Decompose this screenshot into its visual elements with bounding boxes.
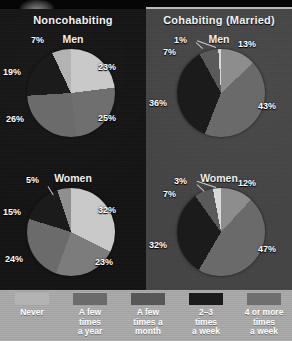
- pie-slice-label: 23%: [95, 257, 113, 267]
- pie-slice-label: 19%: [3, 67, 21, 77]
- panel-title-cohabiting: Cohabiting (Married): [146, 14, 292, 26]
- legend-label: A fewtimes amonth: [119, 308, 177, 337]
- panel-noncohabiting: Noncohabiting Men 7%23%25%26%19% Women 5…: [0, 9, 146, 290]
- pie-slice-label: 23%: [98, 62, 116, 72]
- legend-swatch: [15, 293, 49, 305]
- pie-slice-label: 25%: [98, 113, 116, 123]
- pie-slice-label: 36%: [149, 98, 167, 108]
- panels-container: Noncohabiting Men 7%23%25%26%19% Women 5…: [0, 9, 292, 290]
- top-border-strip: [0, 0, 292, 9]
- pie-cohabiting-women: [177, 188, 265, 276]
- pie-slice-label: 5%: [26, 175, 39, 185]
- legend-swatch: [73, 293, 107, 305]
- pie-slice-label: 24%: [5, 254, 23, 264]
- group-title-cohabiting-men: Men: [146, 33, 292, 45]
- pie-slice-label: 1%: [174, 35, 187, 45]
- legend-label: 2–3timesa week: [177, 308, 235, 337]
- panel-title-noncohabiting: Noncohabiting: [0, 14, 146, 26]
- pie-slice-label: 7%: [31, 35, 44, 45]
- label-leader-line: [197, 184, 205, 192]
- panel-cohabiting: Cohabiting (Married) Men 1%13%43%36%7% W…: [146, 9, 292, 290]
- legend-swatch: [189, 293, 223, 305]
- pie-chart-figure: Noncohabiting Men 7%23%25%26%19% Women 5…: [0, 0, 292, 341]
- pie-slice-label: 12%: [238, 178, 256, 188]
- pie-slice-label: 15%: [3, 207, 21, 217]
- pie-slice-label: 32%: [98, 205, 116, 215]
- legend-label: A fewtimesa year: [61, 308, 119, 337]
- pie-slice-label: 13%: [238, 39, 256, 49]
- legend-item[interactable]: A fewtimesa year: [61, 290, 119, 337]
- legend-label: Never: [3, 308, 61, 318]
- top-blob-artifact: [20, 0, 54, 9]
- legend-label: 4 or moretimesa week: [235, 308, 292, 337]
- pie-slice-label: 7%: [163, 47, 176, 57]
- legend-item[interactable]: A fewtimes amonth: [119, 290, 177, 337]
- legend-item[interactable]: 2–3timesa week: [177, 290, 235, 337]
- pie-slice-label: 43%: [258, 101, 276, 111]
- pie-slice-label: 47%: [258, 244, 276, 254]
- pie-slice-label: 32%: [149, 240, 167, 250]
- legend-swatch: [131, 293, 165, 305]
- group-title-noncohabiting-women: Women: [0, 172, 146, 184]
- legend-item[interactable]: Never: [3, 290, 61, 318]
- pie-slice-label: 7%: [163, 189, 176, 199]
- pie-slice-label: 26%: [6, 114, 24, 124]
- legend-item[interactable]: 4 or moretimesa week: [235, 290, 292, 337]
- pie-cohabiting-men: [177, 49, 265, 137]
- pie-slice-label: 3%: [174, 176, 187, 186]
- legend: NeverA fewtimesa yearA fewtimes amonth2–…: [0, 290, 292, 341]
- group-title-cohabiting-women: Women: [146, 172, 292, 184]
- legend-swatch: [247, 293, 281, 305]
- group-title-noncohabiting-men: Men: [0, 33, 146, 45]
